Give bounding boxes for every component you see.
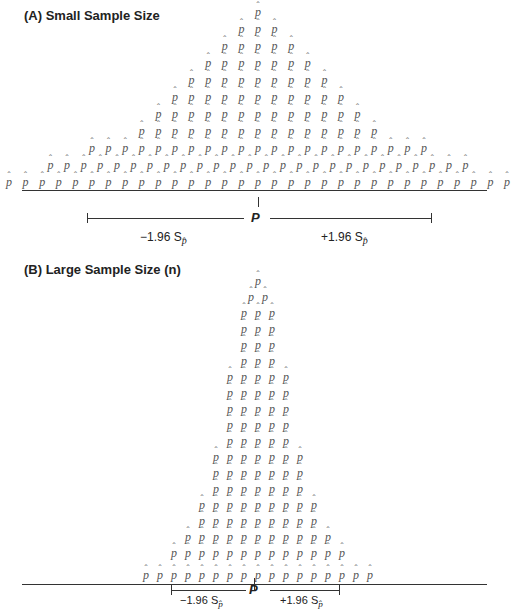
p-hat-marker: ˆp — [224, 569, 236, 581]
p-hat-marker: ˆp — [302, 176, 314, 188]
p-hat-marker: ˆp — [368, 176, 380, 188]
panel-b-left-label: −1.96 Sp̂ — [180, 594, 223, 609]
panel-a-center-tick — [258, 197, 259, 207]
panel-b-ci-right-line — [270, 590, 339, 591]
left-label-sub: p̂ — [182, 235, 187, 246]
panel-b-ci-left-line — [171, 590, 246, 591]
panel-a-ci-right-end — [431, 213, 432, 223]
p-hat-marker: ˆp — [235, 176, 247, 188]
p-hat-marker: ˆp — [322, 547, 334, 559]
p-hat-marker: ˆp — [3, 176, 15, 188]
p-hat-marker: ˆp — [322, 569, 334, 581]
p-hat-marker: ˆp — [252, 176, 264, 188]
p-hat-marker: ˆp — [280, 569, 292, 581]
p-hat-marker: ˆp — [154, 569, 166, 581]
left-label-text: −1.96 S — [180, 594, 218, 606]
p-hat-marker: ˆp — [352, 176, 364, 188]
right-label-text: +1.96 S — [280, 594, 318, 606]
p-hat-marker: ˆp — [308, 569, 320, 581]
p-hat-marker: ˆp — [484, 176, 496, 188]
panel-a-ci-right-line — [270, 218, 431, 219]
p-hat-marker: ˆp — [210, 569, 222, 581]
panel-a-p-label: P — [251, 210, 260, 225]
p-hat-marker: ˆp — [385, 176, 397, 188]
p-hat-marker: ˆp — [350, 569, 362, 581]
p-hat-marker: ˆp — [169, 176, 181, 188]
p-hat-marker: ˆp — [182, 547, 194, 559]
panel-b-ci-right-end — [339, 585, 340, 595]
p-hat-marker: ˆp — [451, 176, 463, 188]
p-hat-marker: ˆp — [266, 547, 278, 559]
p-hat-marker: ˆp — [336, 547, 348, 559]
p-hat-marker: ˆp — [196, 547, 208, 559]
p-hat-marker: ˆp — [196, 569, 208, 581]
panel-a-title: (A) Small Sample Size — [24, 8, 160, 23]
p-hat-marker: ˆp — [224, 547, 236, 559]
p-hat-marker: ˆp — [168, 547, 180, 559]
p-hat-marker: ˆp — [418, 176, 430, 188]
p-hat-marker: ˆp — [186, 176, 198, 188]
p-hat-marker: ˆp — [182, 569, 194, 581]
p-hat-marker: ˆp — [435, 176, 447, 188]
panel-b-title: (B) Large Sample Size (n) — [24, 262, 181, 277]
p-hat-marker: ˆp — [69, 176, 81, 188]
p-hat-marker: ˆp — [238, 547, 250, 559]
p-hat-marker: ˆp — [103, 176, 115, 188]
right-label-sub: p̂ — [318, 599, 323, 609]
right-label-sub: p̂ — [363, 235, 368, 246]
p-hat-marker: ˆp — [266, 569, 278, 581]
panel-a-left-label: −1.96 Sp̂ — [140, 230, 187, 246]
p-hat-marker: ˆp — [501, 176, 513, 188]
p-hat-marker: ˆp — [401, 176, 413, 188]
p-hat-marker: ˆp — [152, 176, 164, 188]
p-hat-marker: ˆp — [36, 176, 48, 188]
p-hat-marker: ˆp — [86, 176, 98, 188]
left-label-sub: p̂ — [218, 599, 223, 609]
panel-b-p-label: P — [249, 582, 258, 597]
p-hat-marker: ˆp — [468, 176, 480, 188]
p-hat-marker: ˆp — [252, 547, 264, 559]
p-hat-marker: ˆp — [140, 569, 152, 581]
p-hat-marker: ˆp — [119, 176, 131, 188]
p-hat-marker: ˆp — [202, 176, 214, 188]
p-hat-marker: ˆp — [210, 547, 222, 559]
p-hat-marker: ˆp — [285, 176, 297, 188]
p-hat-marker: ˆp — [280, 547, 292, 559]
p-hat-marker: ˆp — [335, 176, 347, 188]
left-label-text: −1.96 S — [140, 230, 182, 244]
right-label-text: +1.96 S — [321, 230, 363, 244]
panel-b-right-label: +1.96 Sp̂ — [280, 594, 323, 609]
p-hat-marker: ˆp — [20, 176, 32, 188]
p-hat-marker: ˆp — [336, 569, 348, 581]
p-hat-marker: ˆp — [168, 569, 180, 581]
panel-a-axis — [22, 190, 487, 191]
p-hat-marker: ˆp — [238, 569, 250, 581]
p-hat-marker: ˆp — [269, 176, 281, 188]
p-hat-marker: ˆp — [308, 547, 320, 559]
p-hat-marker: ˆp — [318, 176, 330, 188]
p-hat-marker: ˆp — [294, 547, 306, 559]
p-hat-marker: ˆp — [364, 569, 376, 581]
panel-a-right-label: +1.96 Sp̂ — [321, 230, 368, 246]
p-hat-marker: ˆp — [53, 176, 65, 188]
p-hat-marker: ˆp — [136, 176, 148, 188]
p-hat-marker: ˆp — [219, 176, 231, 188]
panel-a-ci-left-line — [87, 218, 244, 219]
p-hat-marker: ˆp — [294, 569, 306, 581]
